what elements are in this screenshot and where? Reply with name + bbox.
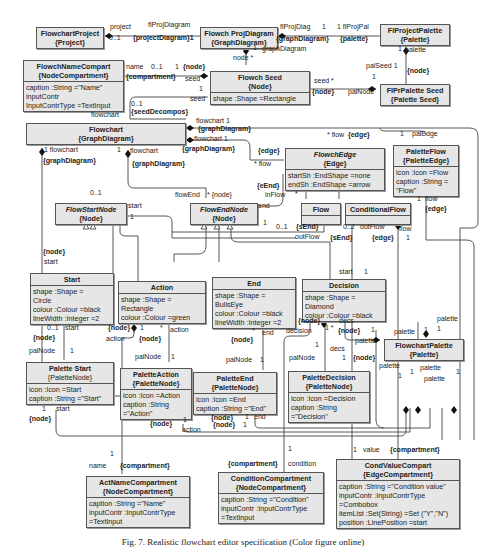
association-label: flowchart — [130, 147, 158, 155]
association-label: 1 — [263, 219, 267, 227]
class-flow-end-node[interactable]: FlowEndNode{Node} — [190, 203, 258, 225]
association-label: 1 flowchart — [44, 146, 78, 154]
class-name: PaletteEnd — [196, 374, 274, 383]
association-label: * — [252, 327, 255, 335]
association-label: 1 — [400, 130, 404, 138]
attribute: inputContr — [26, 92, 121, 101]
class-flowchart-palette[interactable]: FlowchartPalette{Palette} — [384, 339, 464, 361]
association-label: * flow — [254, 160, 271, 168]
association-label: palette — [379, 362, 400, 370]
attribute: caption :String ="End" — [196, 404, 274, 413]
class-type: {NodeCompartment} — [221, 483, 321, 492]
association-label: palette — [405, 46, 426, 54]
association-label: 1 — [140, 324, 144, 332]
attribute: ="Decision" — [291, 412, 367, 421]
association-label: {graphDiagram} — [276, 35, 329, 43]
class-flowch-name-compart[interactable]: FlowchNameCompart{NodeCompartment} capti… — [23, 60, 124, 112]
attribute: lineWidth :Integer =2 — [215, 318, 293, 327]
attribute: colour :Colour =green — [121, 313, 203, 322]
association-label: {node} — [33, 334, 55, 342]
class-flowch-seed[interactable]: Flowch Seed{Node} shape :Shape =Rectangl… — [210, 71, 310, 105]
association-label: {node} — [353, 354, 375, 362]
class-flow-start-node[interactable]: FlowStartNode{Node} — [55, 203, 127, 225]
class-fl-pr-palette-seed[interactable]: FlPrPalette Seed{Palette Seed} — [380, 84, 450, 106]
class-flowchart-project[interactable]: FlowchartProject{Project} — [36, 27, 104, 49]
class-attributes: shape :Shape = BullsEye colour :Colour =… — [213, 289, 295, 328]
class-type: {NodeCompartment} — [89, 487, 187, 496]
class-name: CondValueCompart — [339, 461, 457, 470]
association-label: {edge} — [425, 205, 447, 213]
association-label: palSeed 1 — [366, 62, 398, 70]
class-attributes: caption :String ="Name" inputContr :Inpu… — [87, 497, 189, 527]
class-flowchart[interactable]: Flowchart{GraphDiagram} — [26, 123, 186, 145]
association-label: 1 — [371, 326, 375, 334]
attribute: lineWidth :Integer =2 — [33, 314, 111, 323]
association-label: 0..1 — [131, 100, 143, 108]
class-start[interactable]: Start shape :Shape = Circle colour :Colo… — [30, 273, 114, 325]
class-palette-end[interactable]: PaletteEnd{PaletteNode} icon :Icon =End … — [193, 372, 277, 415]
association-label: {graphDiagram} — [182, 145, 235, 153]
attribute: caption :String = — [396, 177, 456, 186]
association-label: outFlow — [295, 233, 320, 241]
class-name: ConditionCompartment — [221, 474, 321, 483]
association-label: 1 — [42, 405, 46, 413]
association-label: {node} — [108, 324, 130, 332]
association-label: 1 — [70, 347, 74, 355]
association-label: 1 — [253, 44, 257, 52]
flowchart-editor-specification-diagram: FlowchartProject{Project} Flowch ProjDia… — [0, 0, 486, 552]
class-flowch-edge[interactable]: FlowchEdge{Edge} startSh :EndShape =none… — [285, 148, 385, 191]
association-label: {node} — [312, 88, 334, 96]
attribute: inputContr :InputContrType — [221, 504, 321, 513]
association-label: 1 — [245, 413, 249, 421]
association-label: action — [182, 426, 201, 434]
class-flow[interactable]: Flow — [301, 203, 341, 225]
class-cond-value-compart[interactable]: CondValueCompart{EdgeCompartment} captio… — [336, 459, 460, 529]
association-label: 0..1 — [276, 223, 288, 231]
class-attributes: icon :Icon =End caption :String ="End" — [194, 393, 276, 414]
class-name: PaletteDecision — [291, 373, 367, 382]
association-label: flowEnd — [175, 191, 200, 199]
class-fl-project-palette[interactable]: FlProjectPalette{Palette} — [380, 24, 450, 46]
class-palette-action[interactable]: PaletteAction{PaletteNode} icon :Icon =A… — [120, 368, 192, 420]
association-label: flProjDiagram — [148, 21, 190, 29]
association-label: project — [110, 23, 131, 31]
association-label: {node} — [231, 336, 253, 344]
association-label: {projectDiagram}1 — [133, 34, 194, 42]
attribute: shape :Shape = — [215, 291, 293, 300]
class-conditional-flow[interactable]: ConditionalFlow — [345, 203, 411, 225]
class-palette-start[interactable]: Palette Start{PaletteNode} icon :Icon =S… — [26, 362, 114, 405]
association-label: {palette} — [340, 35, 368, 43]
attribute: inputContr :InputContrType — [89, 508, 187, 517]
class-condition-compartment[interactable]: ConditionCompartment{NodeCompartment} ca… — [218, 472, 324, 524]
attribute: position :LinePosition =start — [339, 518, 457, 527]
class-type: {EdgeCompartment} — [339, 470, 457, 479]
attribute: shape :Shape = — [305, 293, 383, 302]
class-attributes: caption :String ="Name" inputContr Input… — [24, 81, 123, 111]
class-type: {GraphDiagram} — [29, 134, 183, 143]
association-label: 1 — [398, 372, 402, 380]
association-label: flowchart 1 — [194, 135, 228, 143]
association-label: 1 — [171, 353, 175, 361]
attribute: ="Action" — [123, 409, 189, 418]
class-name: FlowchartProject — [39, 29, 101, 38]
class-attributes: icon :Icon =Start caption :String ="Star… — [27, 383, 113, 404]
class-name: Flowch ProjDiagram — [203, 29, 275, 38]
class-name: Decision — [305, 281, 383, 290]
class-name: FlowchNameCompart — [26, 62, 121, 71]
class-act-name-compartment[interactable]: ActNameCompartment{NodeCompartment} capt… — [86, 476, 190, 528]
class-end[interactable]: End shape :Shape = BullsEye colour :Colo… — [212, 277, 296, 329]
class-palette-flow[interactable]: PaletteFlow{PaletteEdge} icon :Icon =Flo… — [393, 145, 459, 197]
association-label: {graphDiagram} — [43, 157, 96, 165]
association-label: {node} — [29, 415, 51, 423]
association-label: 1 — [175, 63, 179, 71]
association-label: {edge} — [258, 147, 280, 155]
attribute: icon :Icon =Action — [123, 391, 189, 400]
class-attributes: icon :Icon =Flow caption :String = "Flow… — [394, 166, 458, 196]
association-label: 0..2 — [343, 223, 355, 231]
class-name: ActNameCompartment — [89, 478, 187, 487]
attribute: Rectangle — [121, 304, 203, 313]
association-label: flow — [425, 195, 437, 203]
class-decision[interactable]: Decision shape :Shape = Diamond colour :… — [302, 279, 386, 322]
class-palette-decision[interactable]: PaletteDecision{PaletteNode} icon :Icon … — [288, 371, 370, 423]
class-action[interactable]: Action shape :Shape = Rectangle colour :… — [118, 281, 206, 324]
